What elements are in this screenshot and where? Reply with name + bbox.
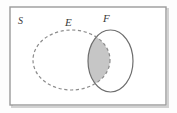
universe-label: S xyxy=(18,15,23,26)
venn-diagram-figure: S E F xyxy=(0,0,177,113)
venn-diagram-canvas: S E F xyxy=(0,0,177,113)
set-f-label: F xyxy=(102,12,110,24)
set-e-label: E xyxy=(64,16,72,28)
